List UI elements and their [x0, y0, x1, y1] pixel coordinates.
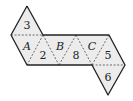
face-label-C: C — [88, 40, 97, 53]
face-label-5: 5 — [105, 49, 112, 62]
face-label-2: 2 — [40, 49, 47, 62]
face-label-3: 3 — [24, 19, 31, 32]
face-label-8: 8 — [73, 49, 80, 62]
octahedron-net: 3 A 2 B 8 C 5 6 — [0, 0, 133, 101]
face-label-B: B — [55, 40, 64, 53]
face-label-6: 6 — [105, 71, 112, 84]
face-label-A: A — [22, 40, 31, 53]
